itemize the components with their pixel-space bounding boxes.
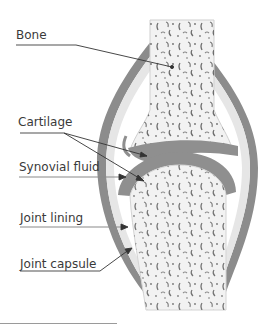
footer-divider xyxy=(0,323,117,324)
label-joint-lining: Joint lining xyxy=(20,211,83,225)
label-synovial-fluid: Synovial fluid xyxy=(19,160,100,174)
label-bone: Bone xyxy=(16,28,47,42)
joint-diagram: Bone Cartilage Synovial fluid Joint lini… xyxy=(0,0,272,327)
label-cartilage: Cartilage xyxy=(18,115,72,129)
lower-bone xyxy=(130,165,226,310)
label-joint-capsule: Joint capsule xyxy=(20,257,96,271)
